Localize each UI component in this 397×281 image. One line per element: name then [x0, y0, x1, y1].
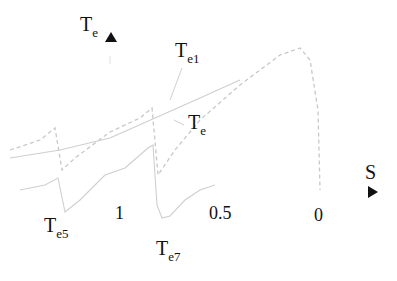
- x-axis-label: S: [365, 162, 376, 182]
- y-axis-label: Te: [80, 14, 98, 39]
- tick-1: 1: [115, 204, 124, 222]
- upper-dashed-curve: [10, 48, 320, 190]
- label-te5-symbol: T: [44, 214, 56, 236]
- label-te-symbol: T: [188, 111, 200, 133]
- label-te1-subscript: e1: [187, 51, 199, 66]
- label-te5: Te5: [44, 215, 69, 240]
- y-axis-subscript: e: [92, 25, 98, 40]
- label-te: Te: [188, 112, 206, 137]
- label-te7: Te7: [156, 238, 181, 263]
- tick-0: 0: [314, 206, 323, 224]
- x-axis-symbol: S: [365, 161, 376, 183]
- te-leader-line: [174, 120, 184, 125]
- y-axis-symbol: T: [80, 13, 92, 35]
- label-te7-symbol: T: [156, 237, 168, 259]
- label-te5-subscript: e5: [56, 226, 68, 241]
- x-axis-arrow-icon: [368, 186, 378, 198]
- label-te-subscript: e: [200, 123, 206, 138]
- y-axis-arrow-icon: [105, 32, 117, 42]
- label-te7-subscript: e7: [168, 249, 180, 264]
- tick-0-5: 0.5: [209, 204, 232, 222]
- label-te1: Te1: [175, 40, 200, 65]
- label-te1-symbol: T: [175, 39, 187, 61]
- te1-leader-line: [170, 68, 182, 100]
